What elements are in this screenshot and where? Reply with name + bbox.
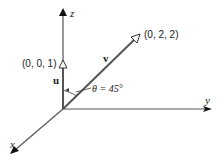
y-axis bbox=[63, 106, 212, 112]
vector-v bbox=[63, 34, 140, 109]
u-hollow-arrowhead-icon bbox=[59, 60, 67, 68]
u-vector-label: u bbox=[53, 74, 59, 86]
x-axis bbox=[10, 109, 63, 154]
vector-u bbox=[59, 60, 67, 109]
u-endpoint-label: (0, 0, 1) bbox=[22, 58, 56, 69]
y-axis-label: y bbox=[204, 94, 210, 106]
angle-label: θ = 45° bbox=[92, 83, 123, 94]
vector-diagram: z y x (0, 0, 1) u (0, 2, 2) v θ = 45° bbox=[0, 0, 224, 165]
x-axis-label: x bbox=[9, 138, 15, 150]
v-endpoint-label: (0, 2, 2) bbox=[144, 29, 178, 40]
z-axis-arrowhead-icon bbox=[59, 8, 67, 16]
z-axis-label: z bbox=[69, 7, 75, 19]
v-vector-label: v bbox=[103, 52, 109, 64]
